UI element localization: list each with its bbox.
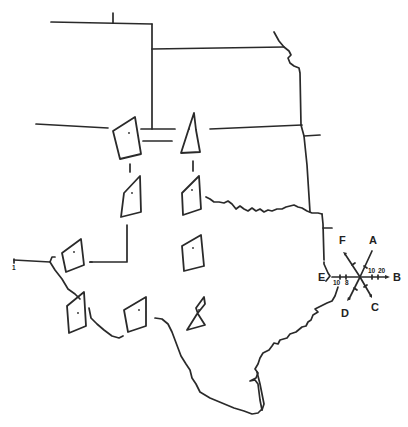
texas-louisiana-border — [322, 214, 324, 260]
missouri-arkansas-border — [304, 135, 320, 136]
tick-label-b-10: 10 — [368, 267, 376, 274]
kansas-oklahoma-border — [210, 125, 302, 129]
station-glyph — [182, 235, 204, 271]
gulf-coast — [250, 287, 338, 410]
rio-grande-mid — [89, 308, 123, 338]
wind-rose-map: A B C D E F 10 20 10 8 1 — [0, 0, 408, 427]
compass-label-f: F — [339, 234, 346, 246]
kansas-north-border — [152, 47, 284, 49]
station-glyph — [124, 297, 146, 332]
station-glyph — [187, 297, 205, 330]
margin-mark: 1 — [12, 264, 16, 271]
compass-label-d: D — [341, 307, 349, 319]
station-glyph — [62, 239, 84, 272]
tick-label-e-8: 8 — [345, 279, 349, 286]
station-glyph — [182, 176, 201, 215]
state-borders — [14, 13, 338, 414]
compass-label-a: A — [369, 234, 377, 246]
red-river — [206, 197, 322, 214]
station-glyph — [113, 117, 141, 159]
texas-new-mexico-border-south — [14, 257, 55, 262]
rio-grande-lower — [155, 318, 262, 414]
tick-label-b-20: 20 — [378, 267, 386, 274]
compass-label-c: C — [371, 301, 379, 313]
tick-label-e-10: 10 — [333, 279, 341, 286]
compass-label-b: B — [393, 271, 401, 283]
station-glyph — [121, 176, 141, 217]
arrowhead-b — [385, 275, 390, 279]
station-glyph — [181, 113, 200, 153]
oklahoma-panhandle-north-left — [36, 124, 108, 128]
compass-label-e: E — [318, 271, 325, 283]
stations — [62, 113, 205, 333]
missouri-river — [274, 32, 301, 125]
oklahoma-arkansas-border — [301, 125, 310, 212]
station-glyph — [67, 292, 86, 333]
texas-new-mexico-border-vert — [90, 225, 127, 262]
nebraska-south-border — [51, 22, 152, 24]
